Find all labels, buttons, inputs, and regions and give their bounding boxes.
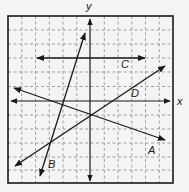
- y-axis-label: y: [85, 0, 93, 12]
- line-b: [40, 33, 85, 176]
- line-c-label: C: [121, 58, 129, 70]
- line-b-label: B: [48, 158, 55, 170]
- line-a-label: A: [147, 144, 155, 156]
- line-d-label: D: [131, 87, 139, 99]
- coordinate-plane-figure: y x C D A B: [0, 0, 189, 192]
- x-axis-label: x: [176, 95, 183, 107]
